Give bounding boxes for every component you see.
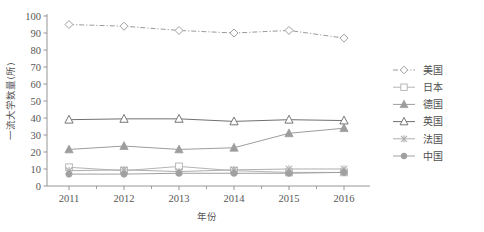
y-tick-label: 30	[31, 130, 42, 141]
y-tick-label: 20	[31, 147, 42, 158]
y-tick-label: 0	[36, 181, 41, 192]
y-axis-title: 一流大学数量(所)	[5, 62, 16, 139]
legend-label: 日本	[423, 81, 443, 93]
x-tick-label: 2015	[279, 193, 300, 204]
legend-label: 美国	[423, 64, 443, 76]
data-point-filled-circle	[231, 170, 237, 176]
x-axis-title: 年份	[197, 211, 217, 222]
y-tick-label: 100	[25, 11, 41, 22]
data-point-filled-circle	[176, 170, 182, 176]
data-point-open-square	[401, 84, 407, 90]
data-point-filled-circle	[341, 169, 347, 175]
x-tick-label: 2011	[59, 193, 80, 204]
data-point-filled-circle	[401, 153, 407, 159]
x-tick-label: 2013	[169, 193, 190, 204]
y-tick-label: 70	[31, 62, 42, 73]
y-tick-label: 10	[31, 164, 42, 175]
y-tick-label: 90	[31, 28, 42, 39]
y-tick-label: 80	[31, 45, 42, 56]
x-tick-label: 2012	[114, 193, 135, 204]
x-tick-label: 2014	[224, 193, 246, 204]
legend-label: 德国	[423, 98, 443, 110]
data-point-filled-circle	[286, 170, 292, 176]
data-point-filled-circle	[66, 171, 72, 177]
y-tick-label: 50	[31, 96, 42, 107]
legend-label: 中国	[423, 150, 443, 162]
y-tick-label: 60	[31, 79, 42, 90]
legend-label: 英国	[423, 115, 443, 127]
data-point-filled-circle	[121, 171, 127, 177]
line-chart: 0102030405060708090100201120122013201420…	[0, 0, 484, 232]
legend-label: 法国	[423, 133, 443, 145]
chart-figure: 0102030405060708090100201120122013201420…	[0, 0, 484, 232]
y-tick-label: 40	[31, 113, 42, 124]
x-tick-label: 2016	[334, 193, 355, 204]
